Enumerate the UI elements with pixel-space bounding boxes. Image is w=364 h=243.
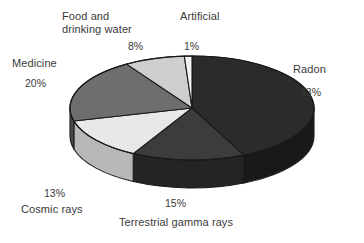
slice-percent-medicine: 20% <box>25 77 46 89</box>
slice-label-terrestrial-gamma-rays: Terrestrial gamma rays <box>119 216 233 229</box>
slice-percent-food-and-drinking-water: 8% <box>128 40 143 52</box>
slice-label-medicine: Medicine <box>12 57 57 70</box>
slice-label-food-line2: drinking water <box>62 23 132 35</box>
slice-percent-cosmic-rays: 13% <box>44 187 65 199</box>
slice-label-food-and-drinking-water: Food and drinking water <box>62 10 158 36</box>
slice-percent-terrestrial-gamma-rays: 15% <box>165 197 186 209</box>
slice-label-cosmic-rays: Cosmic rays <box>21 203 83 216</box>
slice-percent-radon: 43% <box>300 86 321 98</box>
pie-chart-figure: Food and drinking water 8% Artificial 1%… <box>0 0 364 243</box>
slice-label-artificial: Artificial <box>180 10 220 23</box>
slice-label-food-line1: Food and <box>62 10 109 22</box>
slice-percent-artificial: 1% <box>184 40 199 52</box>
slice-label-radon: Radon <box>293 63 326 76</box>
